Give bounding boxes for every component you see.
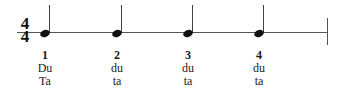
quarter-note-icon bbox=[183, 5, 197, 37]
beat-number: 4 bbox=[244, 48, 274, 62]
beat-number: 3 bbox=[173, 48, 203, 62]
beat-number: 1 bbox=[30, 48, 60, 62]
beat-syllable-ta: Ta bbox=[30, 75, 60, 88]
beat-label-4: 4 du ta bbox=[244, 48, 274, 88]
end-barline bbox=[327, 18, 328, 45]
beat-label-1: 1 Du Ta bbox=[30, 48, 60, 88]
note-head bbox=[111, 28, 123, 38]
beat-number: 2 bbox=[102, 48, 132, 62]
beat-syllable-ta: ta bbox=[173, 75, 203, 88]
note-stem bbox=[121, 5, 122, 33]
staff-line bbox=[17, 32, 328, 33]
note-stem bbox=[263, 5, 264, 33]
quarter-note-icon bbox=[112, 5, 126, 37]
time-signature: 4 4 bbox=[18, 17, 32, 43]
beat-syllable-ta: ta bbox=[102, 75, 132, 88]
note-stem bbox=[49, 5, 50, 33]
quarter-note-icon bbox=[254, 5, 268, 37]
note-head bbox=[253, 28, 265, 38]
note-stem bbox=[192, 5, 193, 33]
note-head bbox=[182, 28, 194, 38]
beat-label-3: 3 du ta bbox=[173, 48, 203, 88]
time-signature-bottom: 4 bbox=[18, 30, 32, 43]
beat-syllable-ta: ta bbox=[244, 75, 274, 88]
note-head bbox=[39, 28, 51, 38]
quarter-note-icon bbox=[40, 5, 54, 37]
beat-label-2: 2 du ta bbox=[102, 48, 132, 88]
